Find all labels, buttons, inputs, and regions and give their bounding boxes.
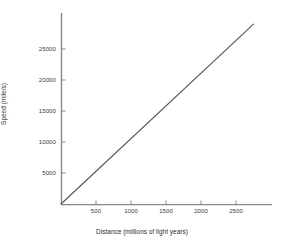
x-tick-label-1500: 1500 — [159, 208, 173, 214]
data-line-speed-vs-distance — [61, 24, 254, 204]
y-tick-label-15000: 15000 — [24, 108, 56, 114]
y-tick-label-10000: 10000 — [24, 139, 56, 145]
chart-container: 25000 20000 15000 10000 5000 500 1000 15… — [0, 0, 284, 245]
x-tick-label-500: 500 — [91, 208, 101, 214]
y-axis-title: Speed (mile/s) — [0, 50, 7, 170]
x-tick-label-2000: 2000 — [194, 208, 208, 214]
x-axis-title: Distance (millions of light years) — [0, 228, 284, 235]
y-tick-label-25000: 25000 — [24, 46, 56, 52]
x-tick-label-1000: 1000 — [124, 208, 138, 214]
x-tick-label-2500: 2500 — [229, 208, 243, 214]
y-tick-label-20000: 20000 — [24, 77, 56, 83]
y-tick-label-5000: 5000 — [24, 170, 56, 176]
